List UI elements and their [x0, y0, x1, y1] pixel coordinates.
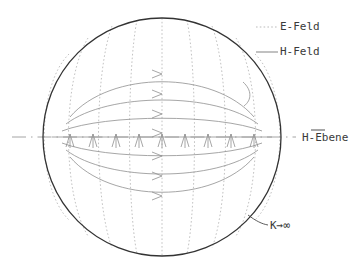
axis-marker [204, 134, 212, 148]
h-field-arrowheads [152, 70, 162, 200]
right-angle-arc-marker [243, 82, 250, 106]
axis-marker [227, 134, 235, 148]
axis-marker [66, 134, 74, 148]
h-plane-label: H-Ebene [302, 131, 348, 144]
boundary-label: K→∞ [270, 219, 290, 232]
axis-marker [112, 134, 120, 148]
h-plane-label-group: H-Ebene [302, 130, 348, 144]
h-field-arrow [152, 70, 162, 78]
legend-item-label-h-field: H-Feld [280, 45, 320, 58]
figure-root: E-Feld H-Feld H-Ebene K→∞ [0, 0, 361, 259]
h-field-arrow [152, 110, 162, 118]
h-field-line [66, 100, 258, 124]
h-field-arrow [152, 90, 162, 98]
h-field-arrow [152, 192, 162, 200]
axis-marker [181, 134, 189, 148]
axis-marker [250, 134, 258, 148]
h-field-arrow [152, 172, 162, 180]
legend-item-label-e-field: E-Feld [280, 20, 320, 33]
legend: E-Feld H-Feld [256, 20, 320, 58]
axis-marker [89, 134, 97, 148]
h-plane-axis-markers [66, 134, 258, 148]
h-field-arrow [152, 129, 162, 137]
field-diagram-svg: E-Feld H-Feld H-Ebene K→∞ [0, 0, 361, 259]
axis-marker [158, 134, 166, 148]
axis-marker [135, 134, 143, 148]
